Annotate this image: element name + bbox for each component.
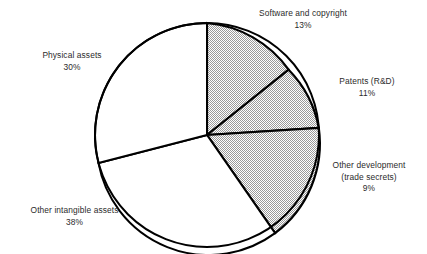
pie-label-software-and-copyright: Software and copyright 13% [228, 8, 378, 31]
pie-label-physical-assets: Physical assets 30% [12, 50, 132, 73]
pie-label-physical-text: Physical assets [12, 50, 132, 62]
pie-label-software-value: 13% [228, 20, 378, 32]
pie-label-other-development-subtext: (trade secrets) [314, 172, 424, 184]
pie-label-patents-text: Patents (R&D) [312, 76, 422, 88]
pie-label-other-intangible-text: Other intangible assets [2, 205, 147, 217]
pie-label-software-text: Software and copyright [228, 8, 378, 20]
pie-label-patents-value: 11% [312, 88, 422, 100]
pie-label-patents-rd: Patents (R&D) 11% [312, 76, 422, 99]
pie-label-other-development-value: 9% [314, 183, 424, 195]
pie-label-other-development-text: Other development [314, 160, 424, 172]
pie-label-other-development: Other development (trade secrets) 9% [314, 160, 424, 195]
pie-chart: Software and copyright 13% Patents (R&D)… [0, 0, 427, 254]
pie-label-other-intangible-value: 38% [2, 217, 147, 229]
pie-label-physical-value: 30% [12, 62, 132, 74]
pie-label-other-intangible-assets: Other intangible assets 38% [2, 205, 147, 228]
